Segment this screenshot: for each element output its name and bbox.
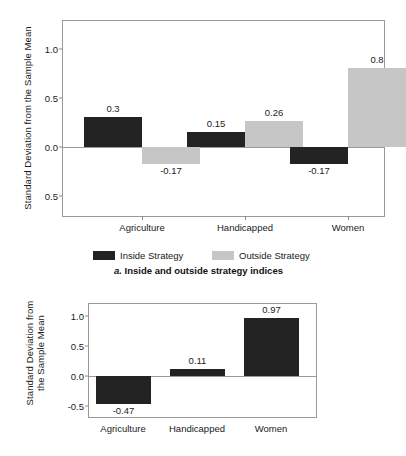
- legend-label-outside: Outside Strategy: [239, 250, 310, 261]
- chart-b-figure: Standard Deviation from the Sample Mean …: [0, 285, 397, 456]
- chart-a-value-inside-handicapped: 0.15: [187, 118, 245, 129]
- chart-b-ytick-label-2: 0.5: [71, 341, 89, 352]
- chart-b-bar-agriculture: [96, 376, 151, 404]
- chart-a-bar-outside-women: [348, 68, 406, 147]
- legend-label-inside: Inside Strategy: [120, 250, 183, 261]
- legend-swatch-outside-icon: [212, 251, 234, 260]
- chart-a-ytick-label-1: 1.0: [45, 43, 63, 54]
- chart-a-caption: a. Inside and outside strategy indices: [0, 265, 397, 276]
- chart-a-value-outside-handicapped: 0.26: [245, 107, 303, 118]
- chart-b-plot-area: 1.0 0.5 0.0 -0.5 -0.47 Agriculture 0.11 …: [88, 303, 317, 418]
- chart-a-ytick-label-2: 0.5: [45, 92, 63, 103]
- chart-b-ytick-label-4: -0.5: [68, 401, 89, 412]
- chart-b-ylabel: Standard Deviation from the Sample Mean: [24, 298, 48, 408]
- chart-b-ytick-label-1: 1.0: [71, 311, 89, 322]
- chart-b-bar-women: [244, 318, 299, 376]
- chart-a-xtick-mark-women: [348, 216, 349, 220]
- chart-b-ylabel-line2: the Sample Mean: [35, 315, 46, 391]
- chart-a-bar-inside-women: [290, 147, 348, 164]
- chart-a-xtick-mark-agriculture: [142, 216, 143, 220]
- chart-b-bar-handicapped: [170, 369, 225, 376]
- chart-a-xlabel-agriculture: Agriculture: [119, 222, 164, 233]
- chart-a-plot-area: 1.0 0.5 0.0 0.5 0.3 -0.17 Agriculture 0.…: [62, 20, 385, 217]
- chart-a-bar-inside-agriculture: [84, 117, 142, 147]
- chart-a-bar-inside-handicapped: [187, 132, 245, 147]
- chart-a-caption-letter: a.: [114, 265, 122, 276]
- chart-a-bar-outside-handicapped: [245, 121, 303, 147]
- chart-b-xlabel-women: Women: [255, 423, 288, 434]
- chart-a-xtick-mark-handicapped: [245, 216, 246, 220]
- chart-b-value-agriculture: -0.47: [96, 405, 151, 416]
- chart-a-value-outside-women: 0.8: [348, 54, 406, 65]
- chart-a-xlabel-handicapped: Handicapped: [217, 222, 273, 233]
- chart-a-figure: Standard Deviation from the Sample Mean …: [0, 0, 397, 285]
- chart-a-bar-outside-agriculture: [142, 147, 200, 164]
- chart-a-value-inside-women: -0.17: [286, 165, 352, 176]
- chart-b-ytick-label-3: 0.0: [71, 371, 89, 382]
- legend-swatch-inside-icon: [93, 251, 115, 260]
- chart-b-xlabel-agriculture: Agriculture: [100, 423, 145, 434]
- chart-b-xlabel-handicapped: Handicapped: [169, 423, 225, 434]
- chart-a-xlabel-women: Women: [332, 222, 365, 233]
- chart-a-value-outside-agriculture: -0.17: [138, 165, 204, 176]
- chart-b-value-women: 0.97: [244, 304, 299, 315]
- chart-a-ytick-label-4: 0.5: [45, 191, 63, 202]
- chart-a-legend-item-outside: Outside Strategy: [212, 250, 310, 261]
- chart-a-caption-text: Inside and outside strategy indices: [125, 265, 283, 276]
- chart-b-value-handicapped: 0.11: [170, 355, 225, 366]
- chart-a-value-inside-agriculture: 0.3: [84, 103, 142, 114]
- chart-b-ylabel-line1: Standard Deviation from: [24, 301, 35, 406]
- chart-a-ytick-label-3: 0.0: [45, 142, 63, 153]
- chart-a-ylabel: Standard Deviation from the Sample Mean: [22, 18, 34, 218]
- chart-a-legend-item-inside: Inside Strategy: [93, 250, 183, 261]
